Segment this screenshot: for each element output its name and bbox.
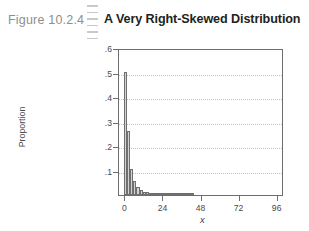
x-tick-label: 48 [196, 203, 206, 213]
y-tick-mark [113, 49, 118, 50]
y-axis-title: Proportion [17, 87, 27, 167]
decorative-ladder-rule [87, 5, 98, 39]
x-tick-mark [239, 196, 240, 201]
y-tick-mark [113, 147, 118, 148]
bars-layer [119, 50, 282, 195]
rule-dash [87, 5, 98, 7]
x-tick-mark [124, 196, 125, 201]
y-tick-label: .6 [105, 44, 112, 54]
y-tick-mark [113, 74, 118, 75]
y-tick-label: .3 [105, 118, 112, 128]
y-tick-label: .2 [105, 142, 112, 152]
x-tick-mark [277, 196, 278, 201]
rule-dash [87, 25, 98, 27]
figure-number-label: Figure 10.2.4 [8, 13, 84, 27]
y-tick-label: .5 [105, 69, 112, 79]
x-tick-label: 0 [122, 203, 127, 213]
plot-frame [118, 49, 283, 196]
x-tick-label: 24 [158, 203, 168, 213]
histogram-bar [190, 193, 193, 195]
x-tick-mark [201, 196, 202, 201]
y-tick-mark [113, 123, 118, 124]
figure-title: A Very Right-Skewed Distribution [104, 12, 300, 26]
rule-dash [87, 18, 98, 20]
x-tick-label: 72 [234, 203, 244, 213]
rule-dash [87, 12, 98, 14]
x-axis-title: x [200, 214, 205, 225]
figure-header: Figure 10.2.4 A Very Right-Skewed Distri… [0, 0, 309, 44]
rule-dash [87, 31, 98, 33]
histogram-chart: .1.2.3.4.5.6 024487296 Proportion x [0, 44, 309, 231]
y-tick-mark [113, 172, 118, 173]
x-tick-label: 96 [272, 203, 282, 213]
rule-dash [87, 38, 98, 40]
x-tick-mark [162, 196, 163, 201]
y-tick-label: .4 [105, 93, 112, 103]
y-tick-label: .1 [105, 167, 112, 177]
y-tick-mark [113, 98, 118, 99]
